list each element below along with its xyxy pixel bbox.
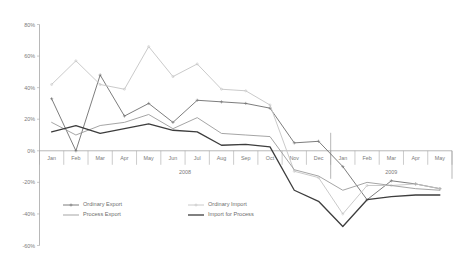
y-tick-label: 60% — [24, 53, 35, 59]
y-tick-label: 40% — [24, 85, 35, 91]
x-tick-label: Apr — [120, 155, 129, 161]
legend-item-ordinary-import[interactable]: Ordinary Import — [188, 201, 247, 207]
series-ordinary-export — [50, 73, 441, 201]
legend-label: Process Export — [83, 211, 121, 217]
chart-canvas: 80%60%40%20%0%-20%-40%-60% JanFebMarAprM… — [0, 0, 463, 257]
legend-label: Ordinary Export — [83, 201, 123, 207]
y-tick-label: -20% — [22, 179, 35, 185]
year-group-label: 2009 — [385, 169, 397, 175]
x-tick-label: Oct — [266, 155, 275, 161]
y-tick-label: 0% — [27, 148, 35, 154]
x-axis: JanFebMarAprMayJunJulAugSepOctNovDecJanF… — [40, 133, 453, 179]
series-line — [52, 75, 440, 200]
x-tick-label: Feb — [71, 155, 80, 161]
y-tick-group: 80%60%40%20%0%-20%-40%-60% — [22, 22, 39, 249]
y-tick-label: -60% — [22, 243, 35, 249]
chart-legend: Ordinary ExportOrdinary ImportProcess Ex… — [63, 201, 254, 217]
x-tick-label: Aug — [217, 155, 227, 161]
x-tick-label: Sep — [241, 155, 251, 161]
x-tick-label: Jun — [169, 155, 178, 161]
legend-label: Import for Process — [208, 211, 254, 217]
x-tick-label: Apr — [411, 155, 420, 161]
x-tick-label: Mar — [96, 155, 105, 161]
x-tick-label: Jan — [47, 155, 56, 161]
series-line — [52, 114, 440, 190]
legend-item-ordinary-export[interactable]: Ordinary Export — [63, 201, 123, 207]
legend-item-import-for-process[interactable]: Import for Process — [188, 211, 254, 217]
y-tick-label: 80% — [24, 22, 35, 28]
y-tick-label: -40% — [22, 211, 35, 217]
legend-item-process-export[interactable]: Process Export — [63, 211, 121, 217]
x-tick-label: Mar — [387, 155, 396, 161]
series-process-export — [52, 114, 440, 190]
x-tick-label: Jan — [338, 155, 347, 161]
x-tick-label: Nov — [289, 155, 299, 161]
x-tick-group: JanFebMarAprMayJunJulAugSepOctNovDecJanF… — [40, 151, 453, 165]
x-tick-label: Jul — [194, 155, 201, 161]
legend-label: Ordinary Import — [208, 201, 247, 207]
series-ordinary-import — [51, 46, 441, 215]
series-group — [50, 46, 441, 227]
y-tick-label: 20% — [24, 116, 35, 122]
line-chart: 80%60%40%20%0%-20%-40%-60% JanFebMarAprM… — [0, 0, 463, 257]
y-axis: 80%60%40%20%0%-20%-40%-60% — [22, 22, 39, 249]
x-tick-label: Dec — [314, 155, 324, 161]
x-tick-label: May — [435, 155, 445, 161]
year-group-label: 2008 — [179, 169, 191, 175]
x-tick-label: Feb — [362, 155, 371, 161]
x-tick-label: May — [144, 155, 154, 161]
